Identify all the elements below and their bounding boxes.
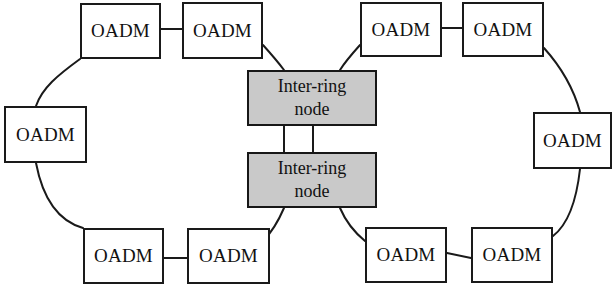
node-label: OADM xyxy=(16,124,75,146)
node-label: Inter-ringnode xyxy=(274,75,351,121)
node-label-line1: Inter-ring xyxy=(278,76,347,96)
node-label: OADM xyxy=(372,19,431,41)
node-inter-ring-bottom[interactable]: Inter-ringnode xyxy=(247,152,377,208)
node-label: OADM xyxy=(91,20,150,42)
node-label: OADM xyxy=(94,245,153,267)
link-arc xyxy=(340,208,365,241)
node-oadm-left-bottom-2[interactable]: OADM xyxy=(187,228,270,284)
node-oadm-left-top-2[interactable]: OADM xyxy=(182,2,263,59)
node-oadm-right-bottom-2[interactable]: OADM xyxy=(471,227,553,283)
node-oadm-right-top-1[interactable]: OADM xyxy=(360,2,442,57)
node-label: OADM xyxy=(193,20,252,42)
node-label: OADM xyxy=(377,244,436,266)
node-oadm-left-top-1[interactable]: OADM xyxy=(80,3,161,59)
node-label: OADM xyxy=(474,19,533,41)
node-label: OADM xyxy=(483,244,542,266)
node-oadm-left-mid[interactable]: OADM xyxy=(4,106,87,163)
link-arc xyxy=(36,59,80,106)
node-label-line1: Inter-ring xyxy=(278,158,347,178)
node-oadm-right-top-2[interactable]: OADM xyxy=(462,2,544,57)
network-topology-diagram: OADMOADMOADMOADMOADMOADMOADMOADMOADMOADM… xyxy=(0,0,615,292)
node-label-line2: node xyxy=(294,99,329,119)
link-straight xyxy=(447,253,471,258)
link-arc xyxy=(263,45,284,70)
link-arc xyxy=(553,169,580,236)
node-label-line2: node xyxy=(294,181,329,201)
node-oadm-right-mid[interactable]: OADM xyxy=(533,112,612,169)
link-arc xyxy=(544,48,580,112)
node-label: Inter-ringnode xyxy=(274,157,351,203)
node-label: OADM xyxy=(543,130,602,152)
link-arc xyxy=(36,163,83,228)
node-oadm-right-bottom-1[interactable]: OADM xyxy=(365,227,447,283)
node-inter-ring-top[interactable]: Inter-ringnode xyxy=(247,70,377,126)
node-oadm-left-bottom-1[interactable]: OADM xyxy=(83,228,164,284)
node-label: OADM xyxy=(199,245,258,267)
link-arc xyxy=(340,45,360,70)
